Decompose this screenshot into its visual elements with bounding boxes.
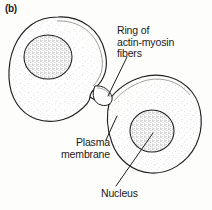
cytokinesis-illustration bbox=[0, 0, 212, 210]
panel-letter: (b) bbox=[5, 3, 17, 15]
label-nucleus: Nucleus bbox=[101, 188, 138, 200]
nucleus-right bbox=[130, 110, 174, 152]
label-plasma-membrane: Plasma membrane bbox=[42, 137, 110, 160]
label-ring-of-actin-myosin-fibers: Ring of actin-myosin fibers bbox=[117, 25, 174, 60]
figure-panel-b: (b) Ring of actin-myosin fibers Plasma m… bbox=[0, 0, 212, 210]
nucleus-left bbox=[24, 35, 72, 79]
actin-myosin-contractile-ring bbox=[93, 86, 112, 106]
